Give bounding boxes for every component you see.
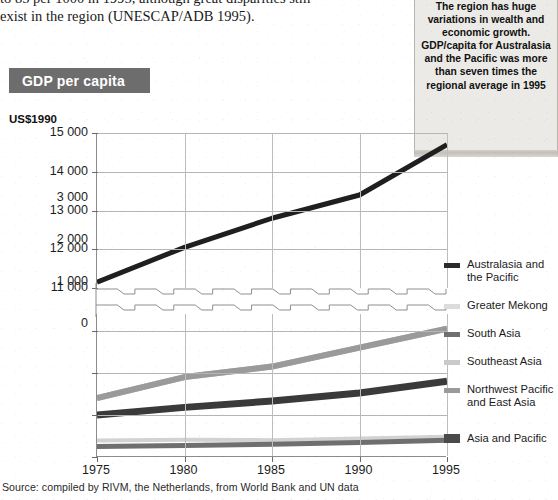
- y-axis-tick: [92, 211, 98, 212]
- legend-label-line2: and East Asia: [467, 396, 553, 409]
- body-paragraph: to 85 per 1000 in 1995, although great d…: [0, 0, 400, 26]
- y-axis-tick-label: 2 000: [10, 232, 88, 246]
- legend-swatch: [444, 263, 460, 268]
- x-axis-tick-label: 1995: [432, 463, 460, 477]
- gridline-vertical: [360, 133, 361, 288]
- y-axis-tick: [92, 373, 98, 374]
- legend-label: Greater Mekong: [467, 299, 548, 312]
- legend-swatch: [444, 388, 460, 393]
- y-axis-tick-label: 3 000: [10, 190, 88, 204]
- legend-label: Southeast Asia: [467, 355, 542, 368]
- legend-item: Australasia andthe Pacific: [444, 258, 558, 283]
- y-axis-tick-label: 0: [10, 316, 88, 330]
- legend-label-line2: the Pacific: [467, 271, 544, 284]
- legend-item: South Asia: [444, 327, 558, 340]
- x-axis-tick: [272, 457, 273, 462]
- chart-title-banner: GDP per capita: [9, 68, 150, 93]
- y-axis-tick: [92, 172, 98, 173]
- y-axis-tick-label: 14 000: [10, 164, 88, 178]
- gridline-vertical: [272, 133, 273, 288]
- legend-item: Greater Mekong: [444, 299, 558, 312]
- gridline-vertical: [272, 314, 273, 456]
- y-axis-tick: [92, 415, 98, 416]
- legend-swatch: [444, 332, 460, 337]
- legend-label: South Asia: [467, 327, 521, 340]
- x-axis-tick: [360, 457, 361, 462]
- body-paragraph-line-2: exist in the region (UNESCAP/ADB 1995).: [0, 7, 400, 26]
- legend-item: Northwest Pacificand East Asia: [444, 383, 558, 408]
- x-axis-tick-label: 1990: [345, 463, 373, 477]
- y-axis-tick-label: 13 000: [10, 203, 88, 217]
- chart-plot-area: [96, 133, 446, 457]
- x-axis-tick: [447, 457, 448, 462]
- x-axis-tick-label: 1985: [257, 463, 285, 477]
- y-axis-tick-label: 15 000: [10, 125, 88, 139]
- axis-break-zigzag: [96, 305, 446, 310]
- chart-title: GDP per capita: [9, 73, 125, 89]
- x-axis-tick: [97, 457, 98, 462]
- y-axis-tick: [92, 133, 98, 134]
- axis-break-marker: [95, 283, 447, 317]
- legend-label-asia-and-pacific: Asia and Pacific: [467, 432, 547, 445]
- y-axis-tick: [92, 249, 98, 250]
- x-axis-tick: [185, 457, 186, 462]
- chart-lower-panel: [96, 314, 446, 457]
- y-axis-tick: [92, 331, 98, 332]
- legend-item: Southeast Asia: [444, 355, 558, 368]
- source-caption: Source: compiled by RIVM, the Netherland…: [2, 481, 359, 493]
- y-axis-tick-label: 1 000: [10, 274, 88, 288]
- x-axis-labels: 19751980198519901995: [0, 463, 558, 479]
- gridline-vertical: [185, 133, 186, 288]
- legend-swatch: [444, 360, 460, 365]
- x-axis-tick-label: 1975: [82, 463, 110, 477]
- chart-legend-total-entry: Asia and Pacific: [444, 432, 558, 445]
- x-axis-tick-label: 1980: [170, 463, 198, 477]
- gridline-vertical: [360, 314, 361, 456]
- body-paragraph-line-1: to 85 per 1000 in 1995, although great d…: [0, 0, 400, 7]
- legend-swatch-asia-and-pacific: [444, 434, 460, 443]
- gridline-vertical: [185, 314, 186, 456]
- chart-upper-panel: [96, 133, 446, 288]
- legend-label: Australasia andthe Pacific: [467, 258, 544, 283]
- legend-swatch: [444, 304, 460, 309]
- axis-break-zigzag: [96, 289, 446, 294]
- legend-label: Northwest Pacificand East Asia: [467, 383, 553, 408]
- y-axis-unit-label: US$1990: [9, 113, 57, 125]
